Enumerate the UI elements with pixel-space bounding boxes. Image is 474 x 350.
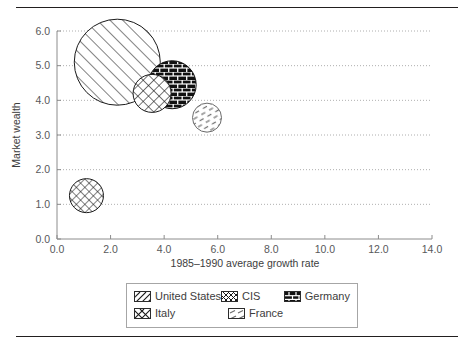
x-tick-label: 14.0 [422, 243, 443, 255]
legend-swatch-brick-solid-icon [284, 291, 301, 302]
legend-item-cis[interactable]: CIS [221, 291, 284, 302]
x-tick-label: 10.0 [315, 243, 336, 255]
legend-row: United States CIS Germany [134, 288, 350, 305]
chart-legend: United States CIS Germany Italy France [126, 283, 358, 328]
x-tick-label: 6.0 [210, 243, 225, 255]
y-axis-title: Market wealth [10, 102, 22, 168]
x-tick-label: 0.0 [50, 243, 65, 255]
x-tick-label: 8.0 [264, 243, 279, 255]
legend-row: Italy France [134, 305, 350, 322]
x-axis-ticks: 0.02.04.06.08.010.012.014.0 [50, 235, 443, 255]
y-tick-label: 2.0 [35, 163, 50, 175]
legend-swatch-diamond-crosshatch-icon [134, 308, 151, 319]
legend-label-france: France [249, 308, 283, 319]
y-tick-label: 5.0 [35, 59, 50, 71]
x-tick-label: 4.0 [157, 243, 172, 255]
legend-label-italy: Italy [155, 308, 175, 319]
y-tick-label: 1.0 [35, 198, 50, 210]
legend-item-united-states[interactable]: United States [134, 291, 221, 302]
y-tick-label: 3.0 [35, 129, 50, 141]
legend-item-france[interactable]: France [228, 308, 298, 319]
x-tick-label: 12.0 [368, 243, 389, 255]
legend-item-germany[interactable]: Germany [284, 291, 350, 302]
bubble-series-group [69, 19, 221, 212]
figure-bottom-rule [16, 336, 458, 337]
bubble-cis[interactable] [69, 179, 103, 213]
legend-label-germany: Germany [305, 291, 350, 302]
x-axis-title: 1985–1990 average growth rate [171, 257, 320, 269]
figure-container: 0.02.04.06.08.010.012.014.0 0.01.02.03.0… [0, 0, 474, 350]
y-tick-label: 0.0 [35, 233, 50, 245]
legend-swatch-sparse-dashes-icon [228, 308, 245, 319]
legend-item-italy[interactable]: Italy [134, 308, 228, 319]
y-tick-label: 6.0 [35, 25, 50, 37]
y-tick-label: 4.0 [35, 94, 50, 106]
x-tick-label: 2.0 [103, 243, 118, 255]
bubble-france[interactable] [193, 103, 222, 132]
legend-swatch-diagonal-stripes-icon [134, 291, 151, 302]
legend-label-cis: CIS [242, 291, 260, 302]
legend-swatch-dense-crosshatch-icon [221, 291, 238, 302]
bubble-italy[interactable] [133, 74, 171, 112]
legend-label-united-states: United States [155, 291, 221, 302]
